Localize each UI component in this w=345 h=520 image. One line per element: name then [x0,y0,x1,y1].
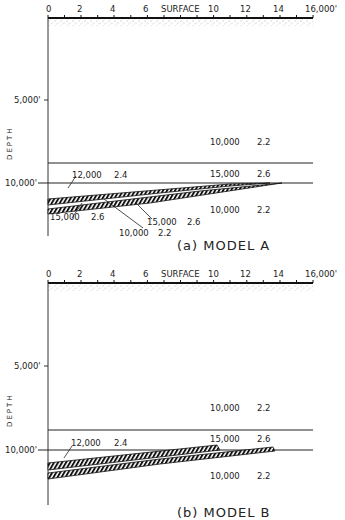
x-axis-surface-label: SURFACE [161,4,200,14]
x-tick-0: 0 [46,269,51,279]
a-lower-vel: 10,000 [210,205,240,215]
a-inner-den: 2.6 [187,217,201,227]
model-b-caption: (b) MODEL B [177,505,271,520]
x-tick-12: 12 [240,4,251,14]
model-a-panel: 0 2 4 6 SURFACE 10 12 14 16,000' 5,000' [5,4,337,253]
b-lower-den: 2.2 [257,471,271,481]
x-tick-14: 14 [273,4,284,14]
x-tick-2: 2 [77,269,82,279]
x-tick-2: 2 [77,4,82,14]
b-wedge-top-vel: 12,000 [71,438,101,448]
b-lower-vel: 10,000 [210,471,240,481]
a-between-vel: 10,000 [119,228,149,238]
b-wedge-top-den: 2.4 [114,438,128,448]
y-tick-5000: 5,000' [14,95,41,105]
x-tick-14: 14 [273,269,284,279]
a-upper-vel: 10,000 [210,137,240,147]
model-a-caption: (a) MODEL A [177,238,270,253]
a-upper-den: 2.2 [257,137,271,147]
a-mid-den: 2.6 [257,169,271,179]
a-mid-vel: 15,000 [210,169,240,179]
y-tick-10000: 10,000' [5,178,37,188]
x-tick-12: 12 [240,269,251,279]
y-axis-label: DEPTH [6,393,14,427]
a-wedge-top-den: 2.4 [114,170,128,180]
a-between-den: 2.2 [158,228,172,238]
x-tick-16000: 16,000' [305,4,337,14]
y-tick-10000: 10,000' [5,445,37,455]
model-figure: 0 2 4 6 SURFACE 10 12 14 16,000' 5,000' [0,0,345,520]
x-tick-6: 6 [143,269,148,279]
x-axis-surface-label: SURFACE [161,269,200,279]
x-tick-10: 10 [208,269,219,279]
x-tick-10: 10 [208,4,219,14]
a-wedge-top-vel: 12,000 [72,170,102,180]
b-mid-den: 2.6 [257,434,271,444]
x-tick-6: 6 [143,4,148,14]
x-tick-labels-b: 0 2 4 6 SURFACE 10 12 14 16,000' [46,269,337,279]
x-tick-4: 4 [110,269,115,279]
b-upper-den: 2.2 [257,403,271,413]
b-upper-vel: 10,000 [210,403,240,413]
model-b-panel: 0 2 4 6 SURFACE 10 12 14 16,000' 5,000' … [5,269,337,520]
x-tick-0: 0 [46,4,51,14]
surface-stipple [48,18,313,26]
surface-stipple [48,283,313,291]
b-mid-vel: 15,000 [210,434,240,444]
a-inner-vel: 15,000 [147,217,177,227]
x-tick-labels: 0 2 4 6 SURFACE 10 12 14 16,000' [46,4,337,14]
a-lower-den: 2.2 [257,205,271,215]
y-tick-5000: 5,000' [14,361,41,371]
x-tick-16000: 16,000' [305,269,337,279]
x-tick-4: 4 [110,4,115,14]
y-axis-label: DEPTH [6,126,14,160]
a-left-vel: 15,000 [50,212,80,222]
a-left-den: 2.6 [91,212,105,222]
